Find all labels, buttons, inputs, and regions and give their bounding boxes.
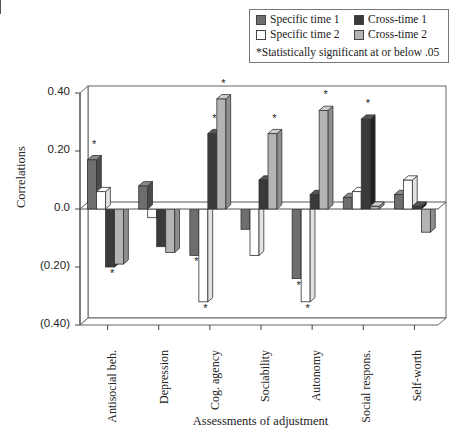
y-tick-label: (0.40): [20, 317, 70, 329]
legend: Specific time 1 Cross-time 1 Specific ti…: [249, 9, 449, 63]
y-tick-label: (0.20): [20, 259, 70, 271]
swatch-icon: [354, 15, 364, 25]
svg-text:*: *: [110, 267, 115, 279]
x-axis-label: Assessments of adjustment: [0, 414, 461, 429]
bar: [301, 205, 315, 302]
corner-mark: [0, 0, 1, 14]
svg-text:*: *: [297, 279, 302, 291]
legend-item-cross-time-2: Cross-time 2: [354, 27, 427, 42]
chart-canvas: ***********: [0, 0, 461, 444]
svg-text:*: *: [212, 112, 217, 124]
svg-text:*: *: [306, 302, 311, 314]
bar: [199, 205, 213, 302]
svg-text:*: *: [194, 255, 199, 267]
category-label: Depression: [157, 350, 172, 404]
y-tick-label: 0.40: [20, 85, 70, 97]
swatch-icon: [354, 30, 364, 40]
bar: [217, 95, 231, 209]
bar: [250, 205, 264, 256]
svg-text:*: *: [221, 77, 226, 89]
svg-text:*: *: [324, 88, 329, 100]
svg-text:*: *: [272, 112, 277, 124]
category-label: Social respons.: [359, 350, 374, 423]
bar: [115, 205, 129, 264]
svg-text:*: *: [366, 97, 371, 109]
y-tick-label: 0.0: [20, 201, 70, 213]
legend-item-specific-time-2: Specific time 2: [256, 27, 340, 42]
legend-item-cross-time-1: Cross-time 1: [354, 12, 427, 27]
legend-item-specific-time-1: Specific time 1: [256, 12, 340, 27]
swatch-icon: [256, 30, 266, 40]
significance-note: *Statistically significant at or below .…: [256, 45, 439, 60]
y-tick-label: 0.20: [20, 143, 70, 155]
category-label: Sociability: [258, 350, 273, 402]
bar: [361, 115, 375, 209]
swatch-icon: [256, 15, 266, 25]
bar: [166, 205, 180, 253]
category-label: Antisocial beh.: [105, 350, 120, 423]
bar: [139, 182, 153, 209]
svg-text:*: *: [92, 138, 97, 150]
y-axis-label: Correlations: [14, 146, 29, 208]
bar: [268, 129, 282, 209]
svg-text:*: *: [203, 302, 208, 314]
category-label: Cog. agency: [208, 350, 223, 410]
bar: [319, 106, 333, 209]
bar: [97, 187, 111, 209]
category-label: Self-worth: [410, 350, 425, 401]
category-label: Autonomy: [309, 350, 324, 401]
